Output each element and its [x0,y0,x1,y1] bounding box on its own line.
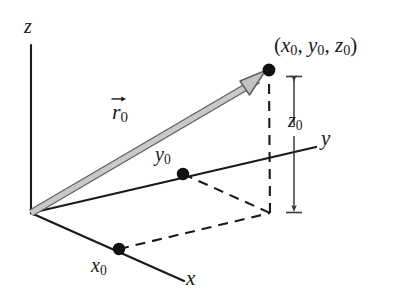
axis-label-y: y [321,128,330,149]
z0-dimension-label: z0 [288,110,303,133]
paren-close: ) [350,33,357,57]
axis-lines [31,45,316,281]
x-axis-line [31,213,184,281]
y0-subscript: 0 [164,152,171,167]
coord-sep-1: , [297,33,308,57]
vector-shaft-body [31,80,258,213]
x0-symbol: x [91,254,100,276]
coord-sep-2: , [324,33,335,57]
vector-symbol: r [112,99,121,124]
coord-z: z [335,33,343,57]
axis-label-x: x [186,268,195,289]
point-coordinate-label: (x0, y0, z0) [274,35,357,57]
y0-symbol: y [155,143,164,165]
y0-intercept-label: y0 [155,144,171,167]
position-vector-arrow [31,71,266,214]
dashed-vertical-to-point [269,78,270,213]
dashed-y-projection [183,174,270,213]
coord-x: x [281,33,290,57]
point-marker-x0 [113,243,125,255]
dashed-x-projection [119,213,270,249]
y-axis-line [31,147,316,213]
vector-symbol-wrap: r [112,101,121,123]
vector-label-r0: r0 [112,101,128,125]
point-marker-p0 [263,64,276,77]
x0-subscript: 0 [100,263,107,278]
x0-intercept-label: x0 [91,255,107,278]
paren-open: ( [274,33,281,57]
coord-y: y [308,33,317,57]
z0-subscript: 0 [296,118,303,133]
coordinate-diagram: z y x (x0, y0, z0) z0 y0 x0 r0 [0,0,399,300]
point-marker-y0 [177,168,189,180]
vector-subscript: 0 [121,109,128,125]
z0-dimension [286,77,302,213]
axis-label-z: z [24,16,32,36]
z0-symbol: z [288,109,296,131]
